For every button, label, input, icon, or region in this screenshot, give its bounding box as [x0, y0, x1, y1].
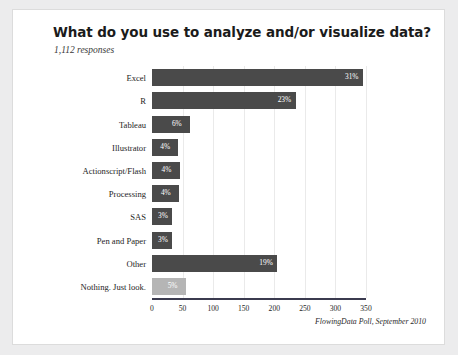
category-label: Illustrator — [38, 143, 146, 153]
category-label: Actionscript/Flash — [38, 166, 146, 176]
bar-value-label: 5% — [168, 281, 178, 290]
chart-title: What do you use to analyze and/or visual… — [53, 24, 433, 40]
category-label: Tableau — [38, 120, 146, 130]
bar-value-label: 19% — [259, 258, 273, 267]
x-tick-label: 150 — [238, 304, 249, 313]
category-label: Nothing. Just look. — [38, 282, 146, 292]
x-tick-label: 100 — [207, 304, 218, 313]
bar-row[interactable]: 3% — [152, 232, 366, 249]
category-label: Excel — [38, 73, 146, 83]
category-axis: ExcelRTableauIllustratorActionscript/Fla… — [41, 66, 151, 298]
bar-row[interactable]: 23% — [152, 92, 366, 109]
bar-row[interactable]: 4% — [152, 185, 366, 202]
x-tick-label: 300 — [330, 304, 341, 313]
x-tick-label: 0 — [150, 304, 154, 313]
bar-row[interactable]: 5% — [152, 278, 366, 295]
bar-row[interactable]: 4% — [152, 162, 366, 179]
category-label: Processing — [38, 189, 146, 199]
plot-region: ExcelRTableauIllustratorActionscript/Fla… — [41, 66, 421, 298]
bar-row[interactable]: 4% — [152, 139, 366, 156]
category-label: Pen and Paper — [38, 236, 146, 246]
axis-baseline — [152, 298, 366, 300]
chart-credit: FlowingData Poll, September 2010 — [315, 317, 426, 326]
chart-subtitle: 1,112 responses — [54, 45, 114, 55]
bar-value-label: 4% — [162, 165, 172, 174]
x-tick-label: 50 — [179, 304, 187, 313]
gridline — [366, 66, 367, 298]
category-label: R — [38, 96, 146, 106]
bar-row[interactable]: 31% — [152, 69, 366, 86]
chart-card: What do you use to analyze and/or visual… — [12, 9, 445, 345]
bar-value-label: 4% — [160, 142, 170, 151]
category-label: Other — [38, 259, 146, 269]
bar-value-label: 4% — [161, 188, 171, 197]
bar-row[interactable]: 3% — [152, 208, 366, 225]
category-label: SAS — [38, 212, 146, 222]
x-tick-label: 350 — [360, 304, 371, 313]
bar[interactable] — [152, 69, 363, 86]
bar-row[interactable]: 6% — [152, 116, 366, 133]
bar-area: 31%23%6%4%4%4%3%3%19%5% — [152, 66, 366, 298]
bar-value-label: 31% — [345, 72, 359, 81]
x-tick-label: 250 — [299, 304, 310, 313]
bar-value-label: 3% — [158, 235, 168, 244]
bar[interactable] — [152, 92, 296, 109]
bar-value-label: 23% — [278, 95, 292, 104]
bar-row[interactable]: 19% — [152, 255, 366, 272]
bar-value-label: 6% — [172, 119, 182, 128]
bar-value-label: 3% — [158, 211, 168, 220]
x-tick-label: 200 — [269, 304, 280, 313]
